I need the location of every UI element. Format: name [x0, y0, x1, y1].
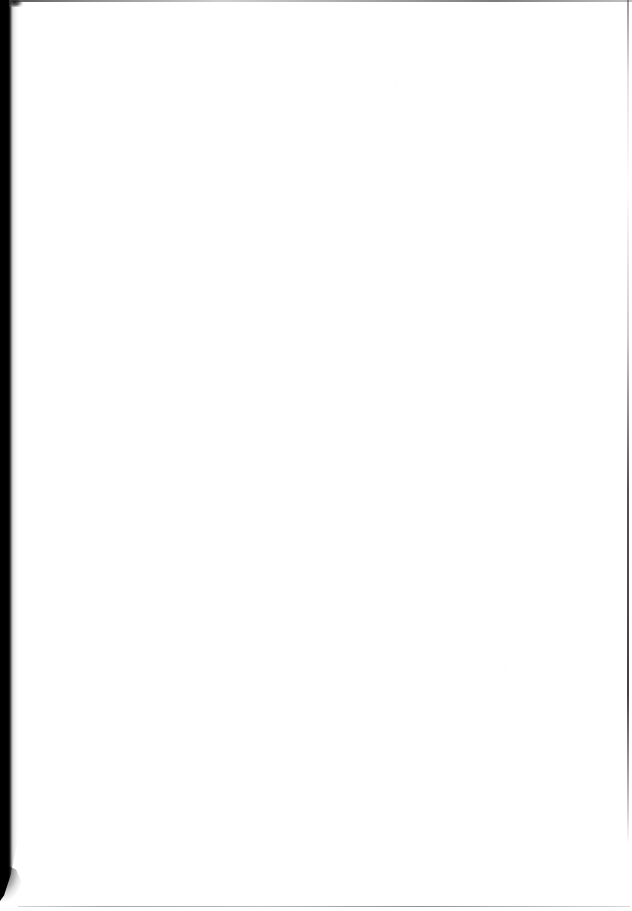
top-page-edge-line: [10, 0, 632, 2]
top-left-scan-smudge: [9, 0, 23, 7]
left-spine-scan-shadow: [0, 0, 20, 901]
bottom-page-edge-line: [18, 906, 630, 907]
scanned-page: [0, 0, 632, 911]
paper-grain-and-dust-speckle: [20, 4, 626, 904]
right-page-edge-line: [627, 0, 629, 845]
